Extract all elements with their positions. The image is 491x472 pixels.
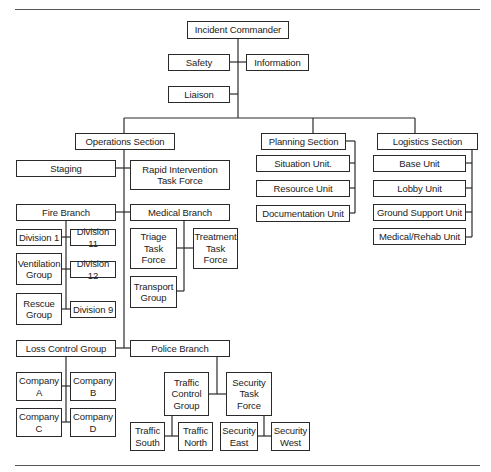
node-lobby-unit: Lobby Unit [373,180,466,197]
node-ventilation-group: Ventilation Group [16,253,62,285]
node-triage-task-force: Triage Task Force [130,228,177,269]
node-division-11: Division 11 [70,229,116,246]
node-traffic-control-group: Traffic Control Group [164,372,209,416]
node-security-west: Security West [271,422,310,451]
node-fire-branch: Fire Branch [16,204,116,221]
node-treatment-task-force: Treatment Task Force [193,228,238,269]
node-division-12: Division 12 [70,261,116,278]
node-loss-control-group: Loss Control Group [16,340,116,357]
node-traffic-north: Traffic North [178,422,213,451]
node-company-c: Company C [16,408,62,437]
node-division-9: Division 9 [70,301,116,318]
node-ground-support-unit: Ground Support Unit [373,204,466,221]
node-transport-group: Transport Group [130,276,177,308]
node-base-unit: Base Unit [373,155,466,172]
node-medical-branch: Medical Branch [130,204,230,221]
node-incident-commander: Incident Commander [187,21,289,39]
node-police-branch: Police Branch [130,340,230,357]
node-security-east: Security East [220,422,258,451]
node-rescue-group: Rescue Group [16,293,62,325]
node-documentation-unit: Documentation Unit [256,205,350,222]
node-company-d: Company D [70,408,116,437]
node-resource-unit: Resource Unit [256,180,350,197]
node-medical-rehab-unit: Medical/Rehab Unit [373,228,466,245]
node-planning-section: Planning Section [261,133,346,150]
node-company-a: Company A [16,372,62,401]
node-traffic-south: Traffic South [130,422,165,451]
node-division-1: Division 1 [16,229,62,246]
node-staging: Staging [16,160,116,177]
node-information: Information [246,54,309,71]
node-situation-unit: Situation Unit. [256,155,350,172]
node-company-b: Company B [70,372,116,401]
node-safety: Safety [168,54,230,71]
node-security-task-force: Security Task Force [226,372,272,416]
node-logistics-section: Logistics Section [377,133,478,150]
node-rapid-intervention: Rapid Intervention Task Force [130,160,230,190]
node-operations-section: Operations Section [75,133,175,150]
node-liaison: Liaison [168,86,230,103]
